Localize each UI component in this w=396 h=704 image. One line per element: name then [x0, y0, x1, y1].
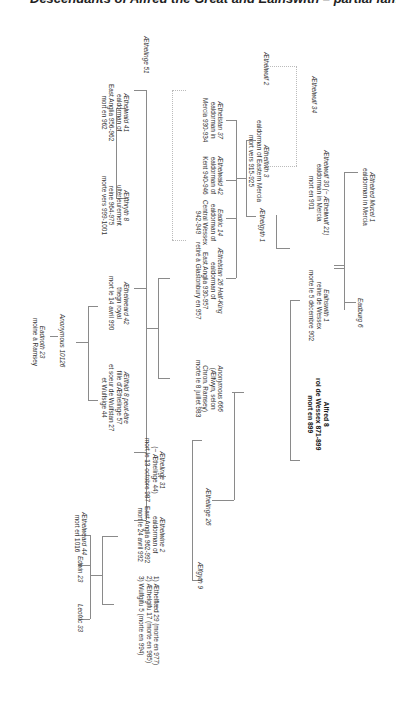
person-eadric: Eadric 14 ealdorman of Central Wessex 94…: [194, 200, 224, 245]
connector-dotted: [172, 240, 186, 241]
wives-list: 1) Æthelflæd 29 (morte en 977) 2) Æthelg…: [138, 576, 160, 665]
connector: [90, 575, 102, 576]
person-eadnoth: Eadnoth 23 moine à Ramsey: [31, 318, 46, 366]
connector: [226, 218, 236, 219]
connector: [50, 336, 58, 337]
connector: [290, 460, 300, 461]
person-alfred: Alfred 8 roi de Wessex 871-899 mort en 8…: [306, 378, 330, 450]
connector: [290, 300, 300, 301]
connector: [146, 328, 158, 329]
connector: [226, 180, 236, 181]
connector: [212, 500, 234, 501]
person-aethelstan-half-king: Æthelstan 26 Half-King ealdorman of East…: [194, 242, 224, 319]
person-aethelweard-44: Æthelweard 44 mort en 1016: [73, 512, 88, 555]
connector: [246, 216, 256, 217]
person-aethelinge-51: Æthelinge 51: [143, 36, 150, 74]
connector: [334, 268, 344, 269]
connector-dotted: [172, 90, 186, 91]
connector: [276, 248, 290, 249]
page-title: Descendants of Alfred the Great and Ealh…: [30, 0, 310, 6]
connector: [344, 302, 356, 303]
connector: [344, 172, 358, 173]
person-aethelinge-31: Æthelinge 31 (~ Æthelinge 44) mort le 13…: [144, 438, 166, 502]
connector: [226, 278, 236, 279]
person-aethelgyth: Æthelgyth 1: [259, 208, 266, 242]
connector: [290, 300, 291, 460]
connector: [234, 392, 235, 500]
connector: [344, 172, 345, 310]
connector: [158, 278, 170, 279]
connector: [276, 215, 277, 249]
person-aethelfrith: Æthelfrith 3 ealdorman of Eastern Mercia…: [248, 120, 270, 202]
person-aelfhild: Ælfhild 8 peut-être fille d'Æthelinge 57…: [100, 364, 130, 431]
connector: [334, 265, 344, 266]
person-aethelweard-42: Æthelweard 42 thegn royal mort le 14 avr…: [108, 276, 130, 330]
connector: [90, 535, 91, 619]
person-edwin: Edwin 23: [77, 556, 84, 582]
connector-dotted: [172, 90, 173, 240]
connector: [192, 440, 202, 441]
person-leofric: Leofric 33: [77, 604, 84, 632]
connector: [158, 278, 159, 378]
connector: [76, 342, 88, 343]
person-aethelwine: Æthelwine 2 ealdorman of East Anglia 962…: [136, 506, 166, 563]
connector-dotted: [296, 66, 297, 166]
connector: [102, 604, 114, 605]
connector: [134, 90, 146, 91]
connector: [102, 536, 118, 537]
person-aelfgyth: Ælfgyth 9: [197, 562, 204, 589]
person-aethelwald-42: Æthelwald 42 ealdorman of Kent 940-946: [202, 156, 224, 195]
connector: [236, 178, 246, 179]
connector: [226, 120, 236, 121]
connector: [88, 306, 89, 400]
connector: [88, 400, 98, 401]
person-aethelwald-41: Æthelwald 41 ealdorman of East Anglia 95…: [100, 84, 130, 141]
connector: [236, 120, 237, 278]
person-anonymous-666: Anonymous 666 (Ælfwyn, selon Chron. Rams…: [194, 360, 224, 417]
person-aethelwulf-2: Æthelwulf 2: [263, 52, 270, 85]
person-aethelstan-37: Æthelstan 37 ealdorman in Mercia 930-934: [202, 98, 224, 142]
connector: [158, 378, 170, 379]
connector: [88, 306, 98, 307]
person-aethelwulf-34: Æthelwulf 34: [311, 76, 318, 113]
connector: [102, 536, 103, 604]
connector: [192, 440, 193, 580]
person-aethelred-mucel: Æthelred Mucel 1 ealdorman in Mercia: [361, 168, 376, 226]
person-aelfthryth: Ælfthryth 8 ultérieurement reine 964-975…: [100, 176, 130, 235]
person-anonymous-10126: Anonymous 10126: [59, 314, 66, 367]
person-aethelwulf-30: Æthelwulf 30 (~ Æthelwulf 21) ealdorman …: [308, 150, 330, 235]
person-aethelinge-26: Æthelinge 26: [205, 488, 212, 526]
connector: [134, 288, 146, 289]
person-eadburg: Eadburg 6: [357, 298, 364, 328]
person-ealhswith: Ealhswith 1 reine de Wessex morte le 5 d…: [308, 270, 330, 341]
